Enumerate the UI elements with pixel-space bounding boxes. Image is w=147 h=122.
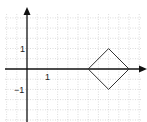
coordinate-plane: 1 1 −1	[0, 0, 147, 122]
y-tick-label-1: 1	[20, 44, 25, 54]
y-axis-arrow-icon	[24, 7, 31, 15]
x-axis-arrow-icon	[139, 66, 147, 73]
x-tick-label-1: 1	[45, 72, 50, 82]
y-tick-label-neg1: −1	[14, 85, 24, 95]
grid	[5, 14, 141, 122]
